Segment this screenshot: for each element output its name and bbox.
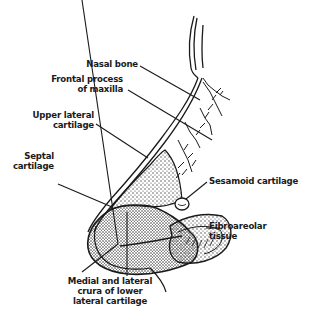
label-line: Frontal process [40,74,123,84]
sesamoid-cartilage-shape [175,198,189,210]
label-upper-lateral-cartilage: Upper lateral cartilage [20,110,94,130]
label-line: Sesamoid cartilage [209,176,309,186]
leader-frontal-process [128,90,212,140]
label-nasal-bone: Nasal bone [70,59,138,69]
leader-sesamoid [186,182,207,199]
label-fibroareolar-tissue: Fibroareolar tissue [209,221,279,241]
label-line: Upper lateral [20,110,94,120]
label-line: Medial and lateral [62,276,158,286]
leader-nasal-bone [140,66,200,100]
label-line: Fibroareolar [209,221,279,231]
label-septal-cartilage: Septal cartilage [6,151,54,171]
nasal-anatomy-diagram: Nasal bone Frontal process of maxilla Up… [0,0,309,325]
label-line: of maxilla [40,84,123,94]
label-line: Septal [6,151,54,161]
leader-septal [58,184,112,207]
label-line: cartilage [6,161,54,171]
label-line: crura of lower [62,286,158,296]
label-crura-lower-lateral-cartilage: Medial and lateral crura of lower latera… [62,276,158,306]
label-line: tissue [209,231,279,241]
label-sesamoid-cartilage: Sesamoid cartilage [209,176,309,186]
label-line: lateral cartilage [62,296,158,306]
label-frontal-process: Frontal process of maxilla [40,74,123,94]
label-line: Nasal bone [70,59,138,69]
leader-upper-lateral [96,124,148,158]
label-line: cartilage [20,120,94,130]
frontal-process-shape [176,78,230,178]
